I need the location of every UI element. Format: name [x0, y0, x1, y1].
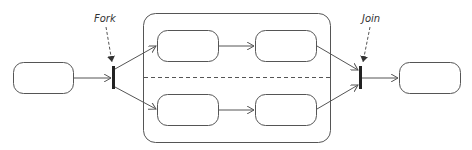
fork-join-diagram: Fork Join — [0, 0, 472, 150]
bottom-right-state — [256, 95, 317, 126]
top-right-state — [256, 31, 317, 62]
fork-bar — [112, 66, 115, 89]
join-bar — [359, 66, 362, 89]
end-state — [400, 63, 461, 94]
fork-callout-arrow — [106, 27, 112, 62]
top-left-state — [158, 31, 219, 62]
join-callout-arrow — [363, 27, 370, 62]
start-state — [14, 63, 74, 94]
bottom-left-state — [158, 95, 219, 126]
fork-label: Fork — [94, 13, 117, 24]
join-label: Join — [360, 13, 380, 24]
